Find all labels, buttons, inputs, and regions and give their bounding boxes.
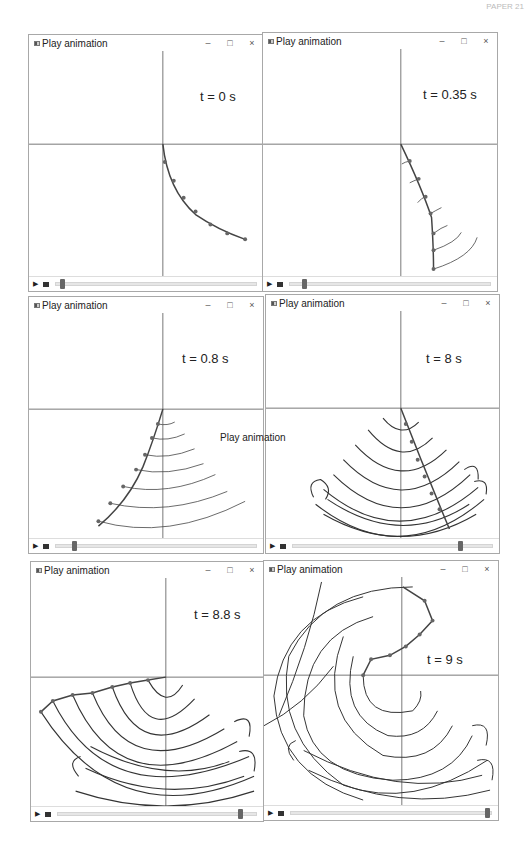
pendulum-plot [29,313,263,539]
floating-window-label: Play animation [220,432,286,443]
title-bar[interactable]: Play animation – □ × [29,297,263,313]
folder-icon[interactable] [43,282,49,287]
folder-icon[interactable] [277,282,283,287]
app-icon [269,567,275,572]
minimize-button[interactable]: – [197,38,219,48]
animation-window-t8: Play animation – □ × t = 8 s ▶ [265,294,500,554]
pendulum-plot [264,577,498,806]
slider-thumb[interactable] [302,279,307,289]
animation-controls: ▶ [31,806,263,821]
animation-controls: ▶ [263,276,497,291]
folder-icon[interactable] [45,812,51,817]
animation-window-t035: Play animation – □ × t = 0.35 s ▶ [262,32,498,292]
close-button[interactable]: × [476,564,498,574]
animation-window-t9: Play animation – □ × t = 9 [263,560,499,821]
pendulum-plot [263,49,497,277]
minimize-button[interactable]: – [433,298,455,308]
minimize-button[interactable]: – [197,565,219,575]
close-button[interactable]: × [241,565,263,575]
app-icon [271,301,277,306]
slider-thumb[interactable] [60,279,65,289]
maximize-button[interactable]: □ [219,300,241,310]
animation-controls: ▶ [266,538,499,553]
animation-controls: ▶ [29,538,263,553]
pendulum-plot [29,51,263,277]
folder-icon[interactable] [280,544,286,549]
slider-thumb[interactable] [72,541,77,551]
time-label: t = 8 s [426,351,462,366]
app-icon [34,303,40,308]
app-icon [36,568,42,573]
plot-canvas[interactable]: t = 0.35 s [263,49,497,277]
play-icon[interactable]: ▶ [268,809,276,817]
minimize-button[interactable]: – [197,300,219,310]
folder-icon[interactable] [278,811,284,816]
app-icon [268,39,274,44]
time-slider[interactable] [289,282,491,286]
plot-canvas[interactable]: t = 8 s [266,311,499,539]
title-bar[interactable]: Play animation – □ × [263,33,497,49]
time-label: t = 8.8 s [194,607,241,622]
play-icon[interactable]: ▶ [33,280,41,288]
maximize-button[interactable]: □ [455,298,477,308]
play-icon[interactable]: ▶ [35,810,43,818]
window-title: Play animation [42,300,197,311]
title-bar[interactable]: Play animation – □ × [266,295,499,311]
close-button[interactable]: × [477,298,499,308]
animation-window-t08: Play animation – □ × t = 0.8 s ▶ [28,296,264,554]
time-slider[interactable] [290,811,492,815]
close-button[interactable]: × [241,300,263,310]
play-icon[interactable]: ▶ [267,280,275,288]
slider-thumb[interactable] [458,541,463,551]
time-label: t = 0.35 s [423,87,477,102]
play-icon[interactable]: ▶ [33,542,41,550]
plot-canvas[interactable]: t = 9 s [264,577,498,806]
title-bar[interactable]: Play animation – □ × [264,561,498,577]
minimize-button[interactable]: – [432,564,454,574]
maximize-button[interactable]: □ [219,565,241,575]
time-label: t = 9 s [427,652,463,667]
animation-window-t88: Play animation – □ × t = 8.8 s ▶ [30,561,264,822]
maximize-button[interactable]: □ [454,564,476,574]
animation-controls: ▶ [29,276,263,291]
maximize-button[interactable]: □ [453,36,475,46]
window-title: Play animation [42,38,197,49]
plot-canvas[interactable]: t = 8.8 s [31,578,263,807]
app-icon [34,41,40,46]
close-button[interactable]: × [475,36,497,46]
animation-controls: ▶ [264,805,498,820]
title-bar[interactable]: Play animation – □ × [29,35,263,51]
time-slider[interactable] [292,544,493,548]
time-slider[interactable] [55,544,257,548]
pendulum-plot [266,311,499,539]
time-slider[interactable] [57,812,257,816]
time-slider[interactable] [55,282,257,286]
plot-canvas[interactable]: t = 0 s [29,51,263,277]
time-label: t = 0.8 s [182,351,229,366]
time-label: t = 0 s [200,89,236,104]
window-title: Play animation [277,564,432,575]
window-title: Play animation [279,298,433,309]
maximize-button[interactable]: □ [219,38,241,48]
play-icon[interactable]: ▶ [270,542,278,550]
slider-thumb[interactable] [238,809,243,819]
slider-thumb[interactable] [485,808,490,818]
plot-canvas[interactable]: t = 0.8 s [29,313,263,539]
page-header-fragment: PAPER 21 [486,2,524,11]
title-bar[interactable]: Play animation – □ × [31,562,263,578]
window-title: Play animation [276,36,431,47]
window-title: Play animation [44,565,197,576]
close-button[interactable]: × [241,38,263,48]
animation-window-t0: Play animation – □ × t = 0 s ▶ [28,34,264,292]
folder-icon[interactable] [43,544,49,549]
minimize-button[interactable]: – [431,36,453,46]
